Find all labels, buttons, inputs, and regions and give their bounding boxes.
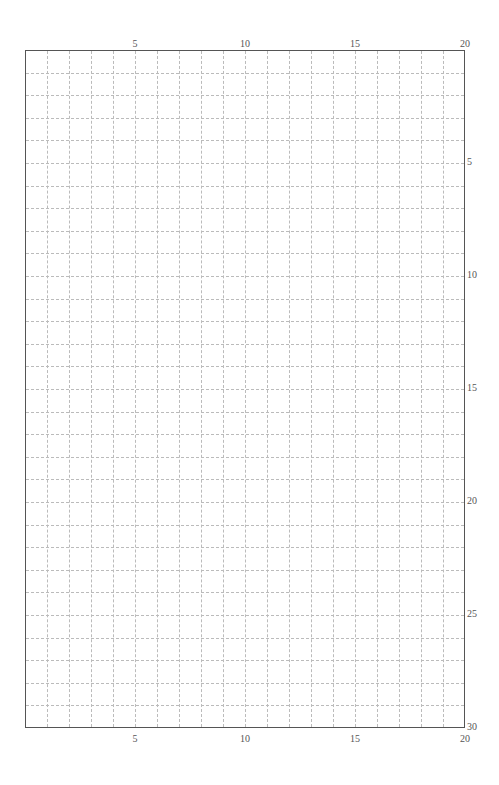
right-axis-label: 5 (467, 157, 472, 167)
right-axis-label: 15 (467, 383, 477, 393)
grid-row-line (26, 186, 464, 187)
grid-row-line (26, 231, 464, 232)
grid-row-line (26, 683, 464, 684)
grid-row-line (26, 276, 464, 277)
grid-row-line (26, 95, 464, 96)
grid-row-line (26, 118, 464, 119)
top-axis-label: 20 (460, 39, 470, 49)
bottom-axis-label: 10 (240, 734, 250, 744)
grid-row-line (26, 457, 464, 458)
grid-row-line (26, 502, 464, 503)
grid-row-line (26, 479, 464, 480)
grid-row-line (26, 660, 464, 661)
bottom-axis-label: 20 (460, 734, 470, 744)
grid-row-line (26, 299, 464, 300)
grid-row-line (26, 412, 464, 413)
grid-row-line (26, 253, 464, 254)
grid-row-line (26, 638, 464, 639)
grid-row-line (26, 705, 464, 706)
right-axis-label: 10 (467, 270, 477, 280)
grid-row-line (26, 592, 464, 593)
grid-paper (25, 50, 465, 728)
grid-row-line (26, 208, 464, 209)
grid-row-line (26, 434, 464, 435)
grid-row-line (26, 163, 464, 164)
top-axis-label: 5 (133, 39, 138, 49)
bottom-axis-label: 15 (350, 734, 360, 744)
grid-row-line (26, 570, 464, 571)
right-axis-label: 30 (467, 722, 477, 732)
grid-row-line (26, 140, 464, 141)
top-axis-label: 15 (350, 39, 360, 49)
bottom-axis-label: 5 (133, 734, 138, 744)
grid-row-line (26, 321, 464, 322)
right-axis-label: 20 (467, 496, 477, 506)
grid-row-line (26, 389, 464, 390)
grid-row-line (26, 344, 464, 345)
right-axis-label: 25 (467, 609, 477, 619)
top-axis-label: 10 (240, 39, 250, 49)
grid-row-line (26, 547, 464, 548)
grid-row-line (26, 525, 464, 526)
grid-row-line (26, 73, 464, 74)
grid-row-line (26, 615, 464, 616)
grid-row-line (26, 366, 464, 367)
